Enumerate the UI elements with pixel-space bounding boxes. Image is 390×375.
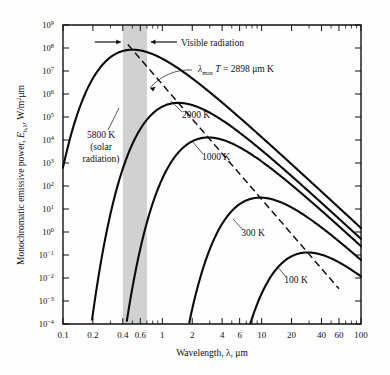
curve-label-5800K: 5800 K [87,130,115,140]
x-tick-label: 0.2 [87,330,98,340]
visible-arrow-left-head [116,39,121,44]
x-tick-label: 6 [237,330,242,340]
y-tick-label: 103 [42,157,54,168]
chart-canvas: 0.10.20.40.61246102040601001091081071061… [0,0,390,375]
x-tick-label: 0.4 [117,330,129,340]
x-tick-label: 10 [257,330,267,340]
y-tick-label: 100 [42,226,54,237]
visible-arrow-right-head [151,39,156,44]
leader-100K [277,266,286,277]
x-tick-label: 0.6 [135,330,147,340]
wien-law-label: λmax T = 2898 μm K [197,64,274,76]
curve-label-5800K-line3: radiation) [83,154,120,165]
blackbody-spectral-emissive-power-chart: 0.10.20.40.61246102040601001091081071061… [0,0,390,375]
x-axis-title: Wavelength, λ, μm [176,348,248,358]
y-tick-label: 104 [42,134,55,145]
leader-300K [233,219,243,230]
x-tick-label: 2 [190,330,195,340]
visible-radiation-label: Visible radiation [181,38,244,48]
curve-label-5800K-line2: (solar [90,142,112,153]
leader-5800K [108,108,119,130]
y-tick-label: 102 [42,180,54,191]
x-tick-label: 1 [160,330,165,340]
curve-label-1000K: 1000 K [202,152,230,162]
curve-label-300K: 300 K [241,228,265,238]
x-tick-label: 40 [317,330,327,340]
y-tick-label: 108 [42,42,54,53]
y-tick-label: 10−4 [39,318,55,329]
y-tick-label: 10−1 [39,249,54,260]
y-tick-label: 109 [42,19,54,30]
leader-1000K [192,141,203,154]
y-tick-label: 10−2 [39,272,54,283]
x-tick-label: 60 [334,330,344,340]
curve-label-2000K: 2000 K [182,110,210,120]
y-tick-label: 106 [42,88,54,99]
planck-curve-100K [250,252,361,323]
y-tick-label: 10−3 [39,295,54,306]
y-tick-label: 101 [42,203,54,214]
curve-label-100K: 100 K [284,275,308,285]
y-tick-label: 105 [42,111,54,122]
x-tick-label: 20 [287,330,297,340]
x-tick-label: 100 [354,330,368,340]
x-tick-label: 4 [220,330,225,340]
y-axis-title: Monochromatic emissive power, Eb,λ, W/m2… [15,85,28,265]
y-tick-label: 107 [42,65,54,76]
x-tick-label: 0.1 [57,330,68,340]
